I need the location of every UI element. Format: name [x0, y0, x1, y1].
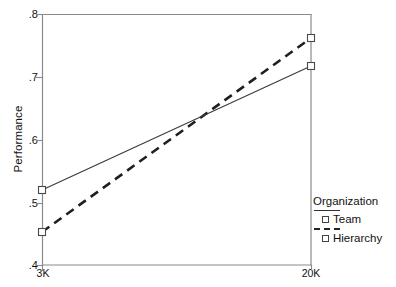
- legend: Organization Team Hierarchy: [313, 194, 396, 245]
- legend-label-team: Team: [333, 213, 361, 226]
- data-point-team-20k: [308, 63, 315, 70]
- legend-square-marker-icon: [322, 216, 329, 223]
- legend-entry-team[interactable]: Team: [313, 210, 396, 226]
- legend-entry-hierarchy[interactable]: Hierarchy: [313, 228, 396, 245]
- data-point-team-3k: [39, 187, 46, 194]
- data-point-hierarchy-20k: [308, 35, 315, 42]
- legend-label-hierarchy: Hierarchy: [333, 232, 382, 245]
- legend-line-dashed-icon: [314, 228, 340, 230]
- series-line-team: [42, 66, 311, 190]
- series-line-hierarchy: [42, 38, 311, 232]
- legend-line-solid-icon: [314, 210, 340, 211]
- line-chart-figure: Performance .8 .7 .6 .5 .4 3K 20K: [0, 0, 396, 287]
- data-point-hierarchy-3k: [39, 229, 46, 236]
- legend-square-marker-icon: [322, 235, 329, 242]
- legend-title: Organization: [313, 194, 396, 208]
